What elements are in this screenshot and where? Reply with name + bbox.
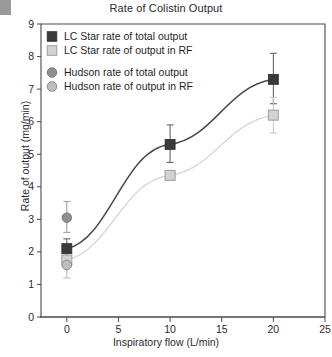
x-tick-label: 25 bbox=[319, 323, 331, 335]
y-tick-label: 8 bbox=[28, 50, 34, 62]
x-axis-ticks: 0510152025 bbox=[64, 317, 331, 335]
legend-item-label: Hudson rate of total output bbox=[64, 66, 188, 78]
y-tick-label: 2 bbox=[28, 245, 34, 257]
data-point-marker bbox=[268, 110, 278, 120]
x-tick-label: 10 bbox=[164, 323, 176, 335]
data-point-marker bbox=[62, 260, 72, 270]
data-point-marker bbox=[165, 170, 175, 180]
legend-item: Hudson rate of total output bbox=[47, 66, 188, 78]
x-axis-label: Inspiratory flow (L/min) bbox=[0, 336, 332, 348]
data-point-marker bbox=[62, 244, 72, 254]
y-axis-label: Rate of output (mg/min) bbox=[19, 76, 31, 236]
x-tick-label: 20 bbox=[268, 323, 280, 335]
chart-legend: LC Star rate of total outputLC Star rate… bbox=[47, 30, 193, 92]
legend-item: LC Star rate of total output bbox=[47, 30, 187, 42]
legend-item-label: LC Star rate of total output bbox=[64, 30, 187, 42]
data-point-marker bbox=[165, 139, 175, 149]
x-tick-label: 15 bbox=[216, 323, 228, 335]
legend-item: LC Star rate of output in RF bbox=[47, 44, 192, 56]
y-tick-label: 1 bbox=[28, 278, 34, 290]
data-point-marker bbox=[62, 213, 72, 223]
chart-plot-area: 0123456789 0510152025 LC Star rate of to… bbox=[0, 0, 332, 357]
x-tick-label: 5 bbox=[116, 323, 122, 335]
y-tick-label: 0 bbox=[28, 311, 34, 323]
data-point-marker bbox=[268, 74, 278, 84]
x-tick-label: 0 bbox=[64, 323, 70, 335]
legend-item: Hudson rate of output in RF bbox=[47, 80, 193, 92]
series-line bbox=[67, 79, 274, 248]
legend-item-label: LC Star rate of output in RF bbox=[64, 44, 192, 56]
y-tick-label: 9 bbox=[28, 18, 34, 30]
legend-item-label: Hudson rate of output in RF bbox=[64, 80, 193, 92]
